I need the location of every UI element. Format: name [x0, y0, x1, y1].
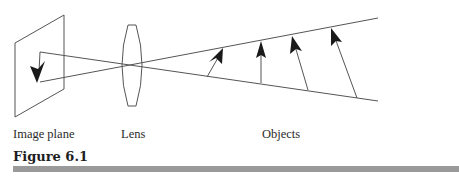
image-plane-label: Image plane: [13, 128, 74, 141]
objects-label: Objects: [262, 128, 300, 141]
object-arrow-icon-4: [331, 28, 357, 98]
image-arrow-icon: [30, 52, 45, 83]
figure-caption: Figure 6.1: [13, 150, 88, 163]
object-arrow-icon-3: [290, 36, 308, 90]
ray-upper: [40, 18, 378, 82]
figure-6-1: Image plane Lens Objects Figure 6.1: [0, 0, 459, 179]
ray-lower: [40, 52, 378, 101]
object-arrow-icon-1: [207, 48, 223, 77]
caption-rule: [13, 166, 459, 172]
object-arrow-icon-2: [256, 41, 266, 83]
lens-label: Lens: [121, 128, 145, 141]
